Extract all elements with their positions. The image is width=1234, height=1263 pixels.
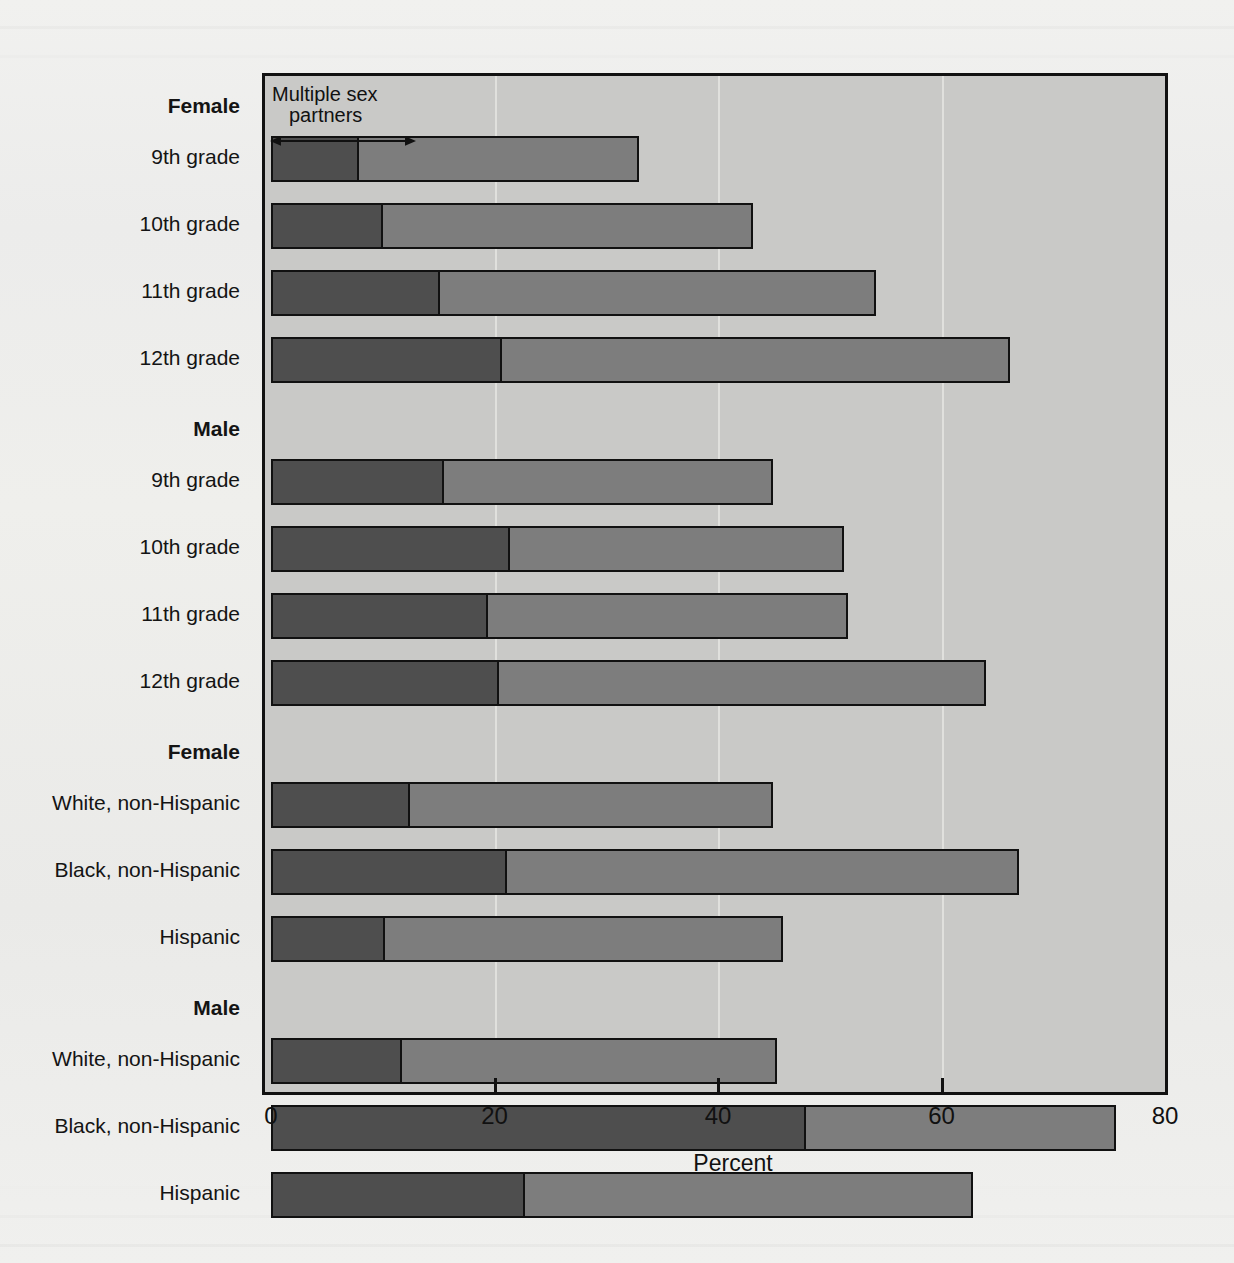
bar-segment-multiple-partners (271, 593, 488, 639)
x-tick-label-40: 40 (705, 1102, 732, 1130)
bar-segment-ever-intercourse (522, 1172, 973, 1218)
bar-segment-ever-intercourse (437, 270, 875, 316)
stacked-bar-chart-figure: Female9th grade10th grade11th grade12th … (0, 0, 1234, 1263)
x-tick-label-0: 0 (264, 1102, 277, 1130)
row-label-3-1: Black, non-Hispanic (54, 1115, 240, 1136)
annotation-line-2: partners (272, 105, 502, 126)
bar-segment-ever-intercourse (380, 203, 752, 249)
bar-row (271, 526, 844, 572)
bar-segment-multiple-partners (271, 1038, 402, 1084)
bar-segment-ever-intercourse (442, 459, 773, 505)
bar-segment-ever-intercourse (504, 849, 1018, 895)
row-label-column: Female9th grade10th grade11th grade12th … (0, 73, 250, 1095)
bar-segment-multiple-partners (271, 203, 383, 249)
x-tick-label-80: 80 (1152, 1102, 1179, 1130)
bar-segment-multiple-partners (271, 270, 440, 316)
row-label-3-2: Hispanic (159, 1182, 240, 1203)
group-label-0: Female (168, 95, 240, 116)
bar-segment-ever-intercourse (500, 337, 1010, 383)
bar-row (271, 782, 773, 828)
bar-row (271, 270, 876, 316)
bar-segment-multiple-partners (271, 660, 499, 706)
group-label-2: Female (168, 741, 240, 762)
row-label-1-3: 12th grade (140, 670, 240, 691)
bar-segment-ever-intercourse (382, 916, 782, 962)
bar-row (271, 660, 986, 706)
row-label-1-1: 10th grade (140, 536, 240, 557)
row-label-1-2: 11th grade (141, 603, 240, 624)
bar-segment-multiple-partners (271, 782, 410, 828)
annotation-multiple-sex-partners: Multiple sex partners (272, 84, 502, 126)
plot-area (262, 73, 1168, 1095)
annotation-line-1: Multiple sex (272, 84, 502, 105)
row-label-2-0: White, non-Hispanic (52, 792, 240, 813)
row-label-0-3: 12th grade (140, 347, 240, 368)
group-label-3: Male (193, 997, 240, 1018)
bar-segment-ever-intercourse (407, 782, 773, 828)
bar-segment-ever-intercourse (804, 1105, 1116, 1151)
x-tick-label-60: 60 (928, 1102, 955, 1130)
x-axis-title: Percent (0, 1150, 1234, 1177)
annotation-double-arrow-icon (270, 134, 416, 148)
row-label-0-0: 9th grade (151, 146, 240, 167)
bar-segment-ever-intercourse (508, 526, 845, 572)
bar-segment-multiple-partners (271, 916, 385, 962)
bar-segment-multiple-partners (271, 526, 510, 572)
bar-row (271, 337, 1010, 383)
x-tick-40 (717, 1078, 720, 1092)
x-tick-20 (494, 1078, 497, 1092)
bar-row (271, 1038, 777, 1084)
row-label-3-0: White, non-Hispanic (52, 1048, 240, 1069)
bar-row (271, 849, 1019, 895)
group-label-1: Male (193, 418, 240, 439)
bar-row (271, 1172, 973, 1218)
x-tick-label-20: 20 (481, 1102, 508, 1130)
bar-segment-multiple-partners (271, 1172, 525, 1218)
bar-row (271, 203, 753, 249)
bar-segment-ever-intercourse (496, 660, 986, 706)
gridline-60 (942, 76, 944, 1092)
bar-row (271, 459, 773, 505)
row-label-1-0: 9th grade (151, 469, 240, 490)
bar-row (271, 593, 848, 639)
bar-segment-ever-intercourse (399, 1038, 777, 1084)
bar-segment-multiple-partners (271, 459, 444, 505)
row-label-2-1: Black, non-Hispanic (54, 859, 240, 880)
x-axis-title-text: Percent (461, 1150, 772, 1176)
row-label-0-2: 11th grade (141, 280, 240, 301)
bar-row (271, 916, 783, 962)
bar-segment-multiple-partners (271, 337, 502, 383)
bar-row (271, 1105, 1116, 1151)
row-label-0-1: 10th grade (140, 213, 240, 234)
row-label-2-2: Hispanic (159, 926, 240, 947)
x-tick-60 (941, 1078, 944, 1092)
bar-segment-multiple-partners (271, 849, 507, 895)
bar-segment-ever-intercourse (485, 593, 847, 639)
